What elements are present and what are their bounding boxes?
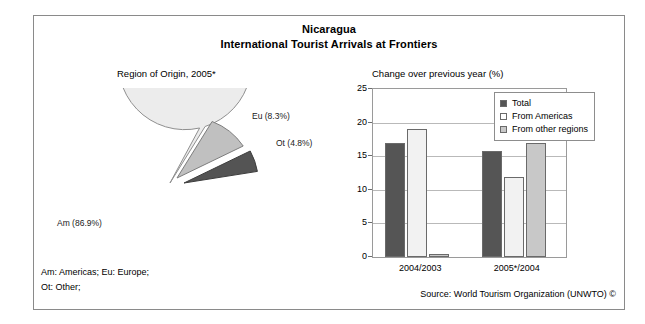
page-subtitle: International Tourist Arrivals at Fronti… (34, 37, 624, 52)
x-axis-tick-label: 2004/2003 (372, 263, 469, 274)
figure-frame: Nicaragua International Tourist Arrivals… (33, 15, 625, 310)
legend-swatch-icon (500, 126, 507, 133)
pie-label-am: Am (86.9%) (57, 218, 102, 229)
bar-total (482, 151, 502, 257)
bar-other-regions (526, 143, 546, 257)
legend-label: From other regions (512, 124, 588, 135)
footnote-abbreviations-line-2: Ot: Other; (41, 281, 81, 294)
y-axis-tick-mark (368, 122, 372, 123)
y-axis-tick-label: 15 (343, 151, 367, 160)
pie-chart: Eu (8.3%) Ot (4.8%) Am (86.9%) (54, 88, 344, 263)
y-axis-tick-label: 25 (343, 84, 367, 93)
x-axis-tick-label: 2005*/2004 (469, 263, 566, 274)
y-axis-tick-label: 0 (343, 252, 367, 261)
bar-americas (407, 129, 427, 257)
y-axis-tick-mark (368, 155, 372, 156)
bar-total (385, 143, 405, 257)
y-axis-tick-label: 10 (343, 185, 367, 194)
legend-label: Total (512, 98, 531, 109)
y-axis-tick-mark (368, 256, 372, 257)
legend-item-from-other-regions: From other regions (500, 123, 588, 136)
legend-item-total: Total (500, 97, 588, 110)
y-axis-tick-mark (368, 88, 372, 89)
y-axis-tick-mark (368, 189, 372, 190)
legend-label: From Americas (512, 111, 573, 122)
legend-swatch-icon (500, 100, 507, 107)
page-title: Nicaragua (34, 22, 624, 37)
chart-legend: Total From Americas From other regions (494, 92, 595, 141)
source-attribution: Source: World Tourism Organization (UNWT… (420, 288, 616, 301)
pie-chart-svg (54, 88, 344, 263)
pie-label-eu: Eu (8.3%) (252, 111, 290, 122)
bar-chart-caption: Change over previous year (%) (372, 68, 503, 80)
legend-swatch-icon (500, 113, 507, 120)
legend-item-from-americas: From Americas (500, 110, 588, 123)
pie-label-ot: Ot (4.8%) (276, 138, 312, 149)
y-axis-tick-label: 5 (343, 218, 367, 227)
bar-chart: Total From Americas From other regions 0… (334, 84, 619, 284)
bar-americas (504, 177, 524, 257)
title-block: Nicaragua International Tourist Arrivals… (34, 22, 624, 52)
footnote-abbreviations-line-1: Am: Americas; Eu: Europe; (41, 266, 149, 279)
y-axis-tick-mark (368, 222, 372, 223)
pie-chart-caption: Region of Origin, 2005* (117, 68, 216, 80)
bar-other-regions (429, 254, 449, 257)
y-axis-tick-label: 20 (343, 118, 367, 127)
